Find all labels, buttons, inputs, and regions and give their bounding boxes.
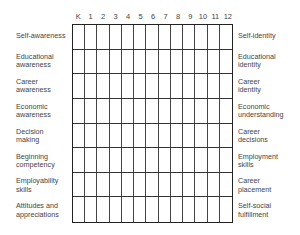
grid-cell xyxy=(171,99,183,124)
grade-column-header: 5 xyxy=(134,11,146,23)
grid-cell xyxy=(220,50,232,75)
grade-column-header: K xyxy=(72,11,84,23)
right-row-label: Self-identity xyxy=(238,24,300,49)
grid-cell xyxy=(122,25,134,50)
grid-cell xyxy=(110,173,122,198)
grid-cell xyxy=(146,124,158,149)
grid-cell xyxy=(110,124,122,149)
grade-column-header: 11 xyxy=(209,11,221,23)
right-row-label: Career placement xyxy=(238,173,300,198)
grid-cell xyxy=(85,124,97,149)
awareness-row-labels: Self-awarenessEducational awarenessCaree… xyxy=(16,24,72,223)
grid-cell xyxy=(183,25,195,50)
grid-cell xyxy=(171,148,183,173)
grid-cell xyxy=(110,197,122,222)
grid-cell xyxy=(146,74,158,99)
grid-cell xyxy=(220,74,232,99)
grid-cell xyxy=(110,99,122,124)
grade-element-matrix xyxy=(72,24,233,223)
grade-column-header: 7 xyxy=(159,11,171,23)
grid-cell xyxy=(85,197,97,222)
grid-cell xyxy=(134,99,146,124)
grid-cell xyxy=(183,124,195,149)
grid-cell xyxy=(220,148,232,173)
grid-cell xyxy=(146,173,158,198)
grid-cell xyxy=(183,99,195,124)
grid-cell xyxy=(134,197,146,222)
grid-cell xyxy=(195,50,207,75)
grid-cell xyxy=(85,50,97,75)
grid-cell xyxy=(208,25,220,50)
grid-cell xyxy=(134,74,146,99)
grid-cell xyxy=(146,99,158,124)
grid-cell xyxy=(171,173,183,198)
grid-cell xyxy=(171,197,183,222)
grid-cell xyxy=(97,148,109,173)
grid-cell xyxy=(171,124,183,149)
grid-cell xyxy=(85,25,97,50)
right-row-label: Self-social fulfillment xyxy=(238,198,300,223)
grid-cell xyxy=(208,148,220,173)
grid-cell xyxy=(85,99,97,124)
grid-cell xyxy=(208,124,220,149)
grid-cell xyxy=(73,124,85,149)
grid-cell xyxy=(146,197,158,222)
grade-column-header: 3 xyxy=(109,11,121,23)
grade-column-header: 2 xyxy=(97,11,109,23)
grid-cell xyxy=(208,74,220,99)
right-row-label: Career decisions xyxy=(238,124,300,149)
left-row-label: Decision making xyxy=(16,124,72,149)
grid-cell xyxy=(85,173,97,198)
grid-cell xyxy=(183,148,195,173)
grid-cell xyxy=(159,148,171,173)
grid-cell xyxy=(183,74,195,99)
grid-cell xyxy=(183,173,195,198)
grid-cell xyxy=(73,173,85,198)
grid-cell xyxy=(159,173,171,198)
grid-cell xyxy=(220,25,232,50)
grid-cell xyxy=(220,173,232,198)
grid-cell xyxy=(97,25,109,50)
grade-column-headers: K123456789101112 xyxy=(72,11,234,23)
grid-cell xyxy=(97,124,109,149)
grid-cell xyxy=(195,148,207,173)
grid-cell xyxy=(171,25,183,50)
grid-cell xyxy=(195,173,207,198)
grid-cell xyxy=(195,74,207,99)
right-row-label: Career identity xyxy=(238,74,300,99)
grid-cell xyxy=(122,124,134,149)
grid-cell xyxy=(73,197,85,222)
grid-cell xyxy=(220,197,232,222)
grid-cell xyxy=(73,148,85,173)
grid-cell xyxy=(110,74,122,99)
grid-cell xyxy=(97,50,109,75)
grid-cell xyxy=(122,197,134,222)
left-row-label: Self-awareness xyxy=(16,24,72,49)
grid-cell xyxy=(146,50,158,75)
grade-column-header: 10 xyxy=(197,11,209,23)
right-row-label: Economic understanding xyxy=(238,99,300,124)
grid-cell xyxy=(159,25,171,50)
left-row-label: Economic awareness xyxy=(16,99,72,124)
grid-cell xyxy=(122,99,134,124)
grid-cell xyxy=(171,74,183,99)
left-row-label: Career awareness xyxy=(16,74,72,99)
grid-cell xyxy=(159,197,171,222)
right-row-label: Educational identity xyxy=(238,49,300,74)
grid-cell xyxy=(85,148,97,173)
grid-cell xyxy=(146,148,158,173)
grid-cell xyxy=(220,124,232,149)
grid-cell xyxy=(208,50,220,75)
grid-cell xyxy=(134,50,146,75)
grid-cell xyxy=(110,148,122,173)
grid-cell xyxy=(208,197,220,222)
grid-cell xyxy=(97,173,109,198)
grid-cell xyxy=(159,124,171,149)
grid-cell xyxy=(122,173,134,198)
grid-cell xyxy=(195,25,207,50)
left-row-label: Employability skills xyxy=(16,173,72,198)
grid-cell xyxy=(134,148,146,173)
grid-cell xyxy=(195,197,207,222)
grid-cell xyxy=(159,99,171,124)
left-row-label: Beginning competency xyxy=(16,148,72,173)
